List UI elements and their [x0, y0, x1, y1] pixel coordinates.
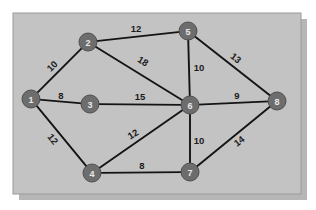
node-circle-6 [181, 96, 199, 114]
node-circle-7 [181, 163, 199, 181]
graph-node-4[interactable]: 4 [83, 164, 101, 182]
graph-node-2[interactable]: 2 [79, 33, 97, 51]
graph-edge-3-6[interactable] [98, 104, 182, 105]
graph-node-6[interactable]: 6 [181, 96, 199, 114]
edge-weight-3-6: 15 [135, 91, 146, 102]
graph-panel [13, 13, 301, 194]
edge-weight-4-7: 8 [139, 160, 144, 171]
graph-node-7[interactable]: 7 [181, 163, 199, 181]
graph-edge-4-7[interactable] [100, 172, 182, 173]
edge-weight-2-5: 12 [131, 23, 142, 34]
node-circle-2 [79, 33, 97, 51]
graph-node-1[interactable]: 1 [22, 90, 40, 108]
graph-figure: 10812121815128101310914 12345678 [0, 0, 316, 210]
node-circle-8 [268, 92, 286, 110]
edge-weight-5-6: 10 [194, 62, 205, 73]
node-circle-5 [179, 22, 197, 40]
graph-node-8[interactable]: 8 [268, 92, 286, 110]
edge-weight-1-3: 8 [58, 90, 63, 101]
node-circle-1 [22, 90, 40, 108]
graph-node-5[interactable]: 5 [179, 22, 197, 40]
graph-node-3[interactable]: 3 [81, 95, 99, 113]
edge-weight-6-7: 10 [194, 135, 205, 146]
node-circle-3 [81, 95, 99, 113]
edge-weight-6-8: 9 [234, 90, 239, 101]
node-circle-4 [83, 164, 101, 182]
graph-canvas: 10812121815128101310914 12345678 [0, 0, 316, 210]
